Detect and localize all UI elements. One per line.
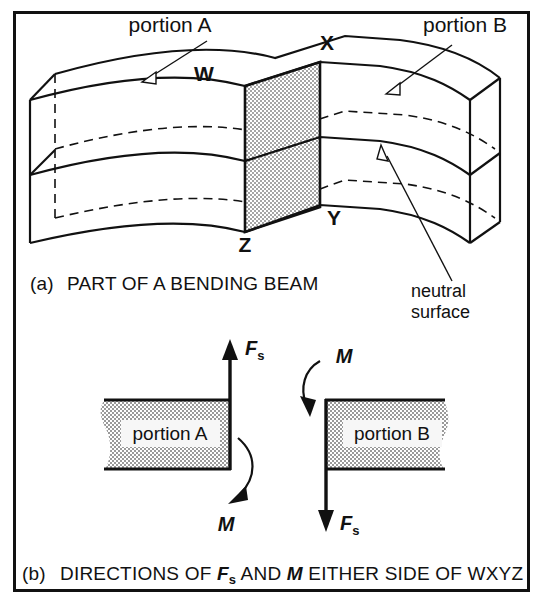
caption-b-part1: DIRECTIONS OF: [60, 563, 217, 584]
caption-b-part2: AND: [236, 563, 287, 584]
portion-b-moment-arrowhead-icon: [300, 396, 316, 417]
portion-b-force-label: Fs: [340, 512, 359, 538]
caption-a-index: (a): [30, 273, 54, 294]
free-body-diagrams: Fs M portion A: [22, 337, 523, 587]
vertex-label-y: Y: [327, 206, 341, 229]
beam-3d-drawing: W X Y Z portion A portion B neutral surf…: [30, 13, 507, 322]
neutral-surface-label-line1: neutral: [411, 281, 466, 301]
portion-a-free-body: Fs M portion A: [101, 337, 265, 535]
vertex-label-z: Z: [239, 233, 252, 256]
caption-a-text: PART OF A BENDING BEAM: [67, 273, 318, 294]
portion-b-free-body: Fs M portion B: [300, 345, 448, 538]
portion-a-block-label: portion A: [133, 423, 208, 444]
caption-b-force-sub: s: [229, 572, 236, 587]
portion-a-moment-arc: [238, 438, 253, 494]
portion-a-label: portion A: [129, 13, 212, 36]
caption-b-moment: M: [287, 563, 304, 584]
cross-section-wxyz: [245, 62, 320, 232]
caption-b-index: (b): [22, 563, 46, 584]
portion-a-shear-force-arrowhead-icon: [222, 339, 238, 360]
portion-a-moment-arrowhead-icon: [228, 486, 248, 504]
vertex-label-x: X: [320, 31, 334, 54]
portion-b-moment-label: M: [336, 345, 354, 367]
portion-b-block-label: portion B: [354, 423, 430, 444]
portion-b-label: portion B: [423, 13, 507, 36]
caption-b-text: DIRECTIONS OF Fs AND M EITHER SIDE OF WX…: [60, 563, 523, 587]
bending-beam-figure: W X Y Z portion A portion B neutral surf…: [0, 0, 543, 604]
caption-b-part3: EITHER SIDE OF WXYZ: [303, 563, 524, 584]
figure-container: W X Y Z portion A portion B neutral surf…: [0, 0, 543, 604]
portion-b-shear-force-arrowhead-icon: [318, 510, 334, 532]
portion-a-force-label: Fs: [245, 337, 264, 363]
vertex-label-w: W: [194, 62, 214, 85]
neutral-surface-label-line2: surface: [411, 302, 470, 322]
portion-a-moment-label: M: [218, 513, 236, 535]
